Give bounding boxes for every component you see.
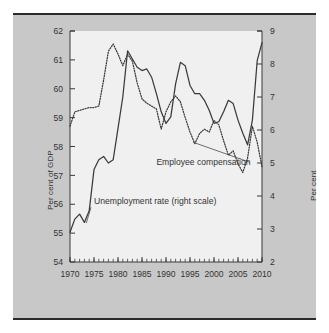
svg-text:62: 62 xyxy=(53,26,63,36)
svg-text:2005: 2005 xyxy=(228,269,247,279)
annotation-label-2: Unemployment rate (right scale) xyxy=(94,196,216,206)
annotation-label-1: Employee compensation xyxy=(156,157,250,167)
figure-container: 1970197519801985199019952000200520105455… xyxy=(0,0,329,333)
svg-text:2010: 2010 xyxy=(252,269,271,279)
chart-panel: 1970197519801985199019952000200520105455… xyxy=(13,13,316,320)
svg-text:1980: 1980 xyxy=(108,269,127,279)
svg-text:6: 6 xyxy=(270,125,275,135)
svg-text:2000: 2000 xyxy=(204,269,223,279)
svg-text:59: 59 xyxy=(53,113,63,123)
svg-text:7: 7 xyxy=(270,92,275,102)
plot-background xyxy=(70,31,262,262)
svg-text:9: 9 xyxy=(270,26,275,36)
svg-text:5: 5 xyxy=(270,158,275,168)
svg-text:1970: 1970 xyxy=(60,269,79,279)
svg-text:8: 8 xyxy=(270,59,275,69)
svg-text:55: 55 xyxy=(53,228,63,238)
chart-plot-svg: 1970197519801985199019952000200520105455… xyxy=(13,15,316,322)
svg-text:1995: 1995 xyxy=(180,269,199,279)
svg-text:1975: 1975 xyxy=(84,269,103,279)
svg-text:61: 61 xyxy=(53,55,63,65)
svg-text:4: 4 xyxy=(270,191,275,201)
y-axis-right-title: Per cent xyxy=(309,170,318,201)
svg-text:3: 3 xyxy=(270,224,275,234)
svg-text:60: 60 xyxy=(53,84,63,94)
svg-text:54: 54 xyxy=(53,257,63,267)
svg-text:1990: 1990 xyxy=(156,269,175,279)
svg-text:1985: 1985 xyxy=(132,269,151,279)
svg-text:2: 2 xyxy=(270,257,275,267)
y-axis-left-title: Per cent of GDP xyxy=(46,150,55,210)
